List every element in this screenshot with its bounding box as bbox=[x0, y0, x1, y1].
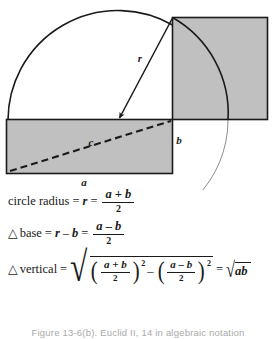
figure-svg: r c b a bbox=[0, 0, 276, 190]
label-c: c bbox=[89, 136, 94, 148]
geometric-figure: r c b a bbox=[0, 0, 276, 190]
radius-arrow-line bbox=[120, 18, 173, 118]
eq3-open-paren-1: ( bbox=[91, 261, 98, 282]
eq3-result-radical: √ ab bbox=[226, 262, 251, 278]
label-r: r bbox=[138, 52, 143, 64]
eq2-triangle-icon: △ bbox=[8, 227, 20, 240]
eq3-result-radicand-body: ab bbox=[235, 262, 251, 278]
eq2-denominator: 2 bbox=[103, 235, 114, 247]
eq3-equals-2: = bbox=[213, 263, 226, 276]
eq3-frac2-denominator: 2 bbox=[176, 273, 187, 283]
eq2-numerator: a – b bbox=[93, 220, 124, 234]
figure-caption: Figure 13-6(b). Euclid II, 14 in algebra… bbox=[0, 327, 276, 339]
eq1-equals-1: = bbox=[69, 195, 82, 208]
eq3-radical-sign: √ bbox=[70, 256, 87, 283]
eq3-frac1-denominator: 2 bbox=[110, 273, 121, 283]
eq3-radicand: ( a + b 2 ) 2 – ( a – b 2 ) bbox=[90, 256, 213, 283]
equation-triangle-vertical: △ vertical = √ ( a + b 2 ) 2 – ( bbox=[8, 256, 251, 283]
equation-block: circle radius = r = a + b 2 △ base = r –… bbox=[0, 184, 276, 314]
eq3-close-paren-2: ) bbox=[198, 261, 205, 282]
eq3-minus: – bbox=[144, 265, 156, 278]
eq3-main-radical: √ ( a + b 2 ) 2 – ( a – b 2 bbox=[70, 256, 213, 283]
eq1-equals-2: = bbox=[87, 195, 100, 208]
eq3-fraction-1: a + b 2 bbox=[101, 259, 130, 283]
eq3-exponent-2: 2 bbox=[207, 260, 211, 268]
eq3-frac2-numerator: a – b bbox=[167, 259, 195, 272]
upper-right-shaded-square bbox=[173, 18, 268, 120]
eq1-denominator: 2 bbox=[113, 203, 124, 215]
eq1-fraction: a + b 2 bbox=[102, 188, 134, 215]
eq3-lhs-text: vertical bbox=[20, 263, 57, 276]
eq3-close-paren-1: ) bbox=[133, 261, 140, 282]
eq2-equals-1: = bbox=[42, 227, 55, 240]
eq3-result-radicand: ab bbox=[235, 265, 248, 278]
eq3-equals-1: = bbox=[57, 263, 70, 276]
eq3-open-paren-2: ( bbox=[157, 261, 164, 282]
eq2-fraction: a – b 2 bbox=[93, 220, 124, 247]
label-b: b bbox=[176, 134, 182, 146]
eq3-result-radical-sign: √ bbox=[226, 262, 235, 278]
eq3-triangle-icon: △ bbox=[8, 263, 20, 276]
equation-circle-radius: circle radius = r = a + b 2 bbox=[8, 188, 136, 215]
eq3-fraction-2: a – b 2 bbox=[167, 259, 195, 283]
eq2-lhs-text: base bbox=[20, 227, 42, 240]
equation-triangle-base: △ base = r – b = a – b 2 bbox=[8, 220, 126, 247]
eq2-minus: – bbox=[60, 227, 72, 240]
eq2-equals-2: = bbox=[78, 227, 91, 240]
eq1-numerator: a + b bbox=[102, 188, 134, 202]
figure-page: r c b a circle radius = r = a + b 2 △ ba… bbox=[0, 0, 276, 339]
eq3-exponent-1: 2 bbox=[141, 260, 145, 268]
eq3-frac1-numerator: a + b bbox=[101, 259, 130, 272]
eq1-lhs-text: circle radius bbox=[8, 195, 69, 208]
